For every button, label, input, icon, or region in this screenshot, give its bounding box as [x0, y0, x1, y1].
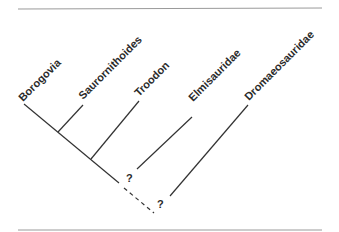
- taxon-label-dromaeosauridae: Dromaeosauridae: [242, 28, 316, 102]
- branch-saurornithoides: [58, 105, 83, 132]
- branch-elmisauridae: [137, 117, 192, 169]
- taxon-label-borogovia: Borogovia: [16, 56, 64, 104]
- taxon-label-elmisauridae: Elmisauridae: [186, 47, 243, 104]
- taxon-label-troodon: Troodon: [132, 59, 172, 99]
- uncertain-marker-2: ?: [157, 198, 164, 210]
- branch-troodon: [91, 101, 139, 159]
- dashed-stem: [124, 188, 154, 213]
- main-stem: [24, 104, 119, 183]
- branch-dromaeosauridae: [170, 105, 248, 196]
- cladogram-svg: ? ? Borogovia Saurornithoides Troodon El…: [0, 0, 339, 232]
- cladogram-figure: ? ? Borogovia Saurornithoides Troodon El…: [0, 0, 339, 232]
- top-rule: [18, 8, 322, 9]
- uncertain-marker-1: ?: [126, 172, 133, 184]
